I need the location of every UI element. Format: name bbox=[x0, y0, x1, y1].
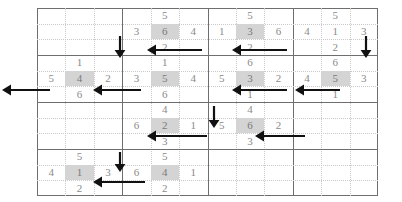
arrow-left-icon bbox=[2, 84, 50, 96]
grid-hline-major bbox=[37, 102, 378, 103]
arrow-down-icon bbox=[114, 152, 126, 172]
grid-number-cell[interactable]: 2 bbox=[321, 39, 349, 55]
grid-number-cell[interactable]: 5 bbox=[151, 8, 179, 24]
grid-number-cell[interactable]: 6 bbox=[321, 55, 349, 71]
grid-number-cell[interactable]: 1 bbox=[321, 24, 349, 40]
arrow-left-icon bbox=[93, 176, 145, 188]
grid-number-cell[interactable]: 1 bbox=[208, 24, 236, 40]
arrow-left-icon bbox=[232, 84, 287, 96]
grid-number-cell[interactable]: 6 bbox=[151, 86, 179, 102]
arrow-down-icon bbox=[114, 36, 126, 58]
grid-number-cell[interactable]: 5 bbox=[65, 149, 93, 165]
grid-number-cell[interactable]: 4 bbox=[65, 71, 93, 87]
grid-number-cell[interactable]: 4 bbox=[179, 24, 207, 40]
grid-number-cell[interactable]: 4 bbox=[37, 165, 65, 181]
grid-number-cell[interactable]: 4 bbox=[151, 102, 179, 118]
grid-number-cell[interactable]: 3 bbox=[350, 71, 378, 87]
grid-number-cell[interactable]: 6 bbox=[151, 24, 179, 40]
grid-number-cell[interactable]: 2 bbox=[65, 180, 93, 196]
grid-number-cell[interactable]: 4 bbox=[151, 165, 179, 181]
arrow-down-icon bbox=[208, 106, 220, 128]
grid-number-cell[interactable]: 1 bbox=[179, 165, 207, 181]
grid-number-cell[interactable]: 3 bbox=[122, 24, 150, 40]
grid-number-cell[interactable]: 5 bbox=[321, 8, 349, 24]
grid-hline-minor bbox=[37, 133, 378, 134]
grid-number-cell[interactable]: 4 bbox=[179, 71, 207, 87]
arrow-left-icon bbox=[255, 130, 305, 142]
arrow-left-icon bbox=[147, 44, 202, 56]
grid-number-cell[interactable]: 4 bbox=[293, 24, 321, 40]
grid-number-cell[interactable]: 6 bbox=[65, 86, 93, 102]
arrow-down-icon bbox=[360, 36, 372, 58]
arrow-left-icon bbox=[93, 84, 141, 96]
grid-number-cell[interactable]: 5 bbox=[151, 149, 179, 165]
grid-number-cell[interactable]: 5 bbox=[151, 71, 179, 87]
grid-number-cell[interactable]: 4 bbox=[236, 102, 264, 118]
arrow-left-icon bbox=[295, 84, 340, 96]
arrow-left-icon bbox=[232, 44, 287, 56]
grid-number-cell[interactable]: 1 bbox=[65, 55, 93, 71]
grid-number-cell[interactable]: 5 bbox=[236, 8, 264, 24]
grid-number-cell[interactable]: 6 bbox=[236, 55, 264, 71]
grid-number-cell[interactable]: 3 bbox=[236, 24, 264, 40]
grid-number-cell[interactable]: 1 bbox=[151, 55, 179, 71]
grid-number-cell[interactable]: 2 bbox=[151, 180, 179, 196]
grid-number-cell[interactable]: 1 bbox=[65, 165, 93, 181]
grid-number-cell[interactable]: 6 bbox=[264, 24, 292, 40]
arrow-left-icon bbox=[147, 130, 207, 142]
puzzle-canvas: 5364251362541321542613546653216453146213… bbox=[0, 0, 402, 202]
